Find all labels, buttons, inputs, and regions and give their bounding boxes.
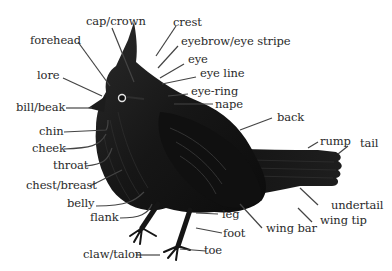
bird-beak-shape <box>88 96 106 112</box>
label-belly: belly <box>67 197 95 210</box>
label-tail: tail <box>360 137 378 150</box>
label-eyebrow-eye-stripe: eyebrow/eye stripe <box>181 35 290 48</box>
label-crest: crest <box>173 16 202 29</box>
label-foot: foot <box>223 227 245 240</box>
label-back: back <box>277 111 304 124</box>
label-eye-line: eye line <box>200 67 245 80</box>
label-cheek: cheek <box>32 142 66 155</box>
label-claw-talon: claw/talon <box>83 248 142 261</box>
label-leg: leg <box>222 208 240 221</box>
label-throat: throat <box>53 159 88 172</box>
label-cap-crown: cap/crown <box>86 15 146 28</box>
label-eye: eye <box>188 53 208 66</box>
bird-anatomy-diagram: cap/crown crest forehead eyebrow/eye str… <box>0 0 392 271</box>
label-wing-tip: wing tip <box>320 214 367 227</box>
label-forehead: forehead <box>30 34 81 47</box>
label-nape: nape <box>215 98 243 111</box>
label-rump: rump <box>320 135 351 148</box>
label-chest-breast: chest/breast <box>26 179 97 192</box>
label-undertail: undertail <box>331 199 383 212</box>
label-bill-beak: bill/beak <box>16 101 65 114</box>
label-toe: toe <box>204 244 222 257</box>
label-lore: lore <box>37 69 60 82</box>
label-wing-bar: wing bar <box>266 222 317 235</box>
label-flank: flank <box>90 211 119 224</box>
label-chin: chin <box>39 125 64 138</box>
